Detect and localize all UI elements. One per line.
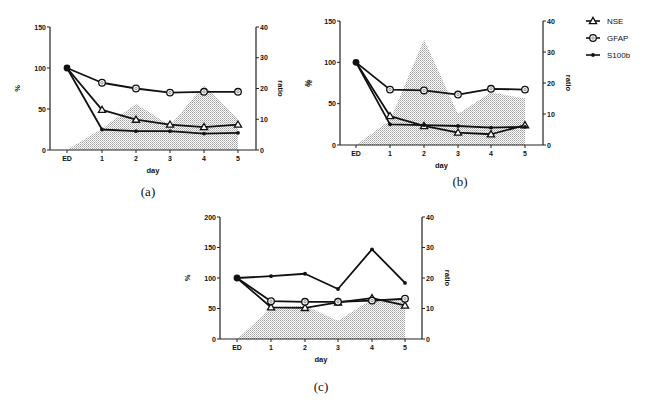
x-tick-label: 5 bbox=[236, 155, 240, 162]
dot-marker-icon bbox=[422, 123, 426, 127]
dot-marker-icon bbox=[591, 53, 595, 57]
x-tick-label: 3 bbox=[336, 344, 340, 351]
panel-caption: (a) bbox=[141, 184, 155, 199]
panel-caption: (c) bbox=[314, 379, 328, 394]
y-right-tick-label: 10 bbox=[260, 116, 268, 123]
chart-panel-b: 050100150010203040ED12345day%ratio(b) bbox=[303, 18, 573, 190]
circle-marker-icon bbox=[387, 86, 394, 93]
y-right-axis-label: ratio bbox=[443, 270, 452, 287]
circle-marker-icon bbox=[268, 298, 275, 305]
y-right-tick-label: 40 bbox=[547, 18, 555, 25]
y-right-tick-label: 0 bbox=[426, 336, 430, 343]
x-axis-label: day bbox=[147, 166, 161, 175]
y-right-tick-label: 30 bbox=[547, 49, 555, 56]
circle-marker-icon bbox=[369, 297, 376, 304]
y-axis-label: % bbox=[13, 85, 22, 92]
dot-marker-icon bbox=[168, 129, 172, 133]
x-tick-label: 5 bbox=[403, 344, 407, 351]
x-tick-label: ED bbox=[351, 150, 361, 157]
legend-label-gfap: GFAP bbox=[607, 34, 628, 43]
x-tick-label: 3 bbox=[168, 155, 172, 162]
y-right-tick-label: 20 bbox=[426, 275, 434, 282]
dot-marker-icon bbox=[303, 272, 307, 276]
dot-marker-icon bbox=[370, 247, 374, 251]
panel-caption: (b) bbox=[452, 174, 467, 189]
x-tick-label: 5 bbox=[523, 150, 527, 157]
dot-marker-icon bbox=[489, 126, 493, 130]
circle-marker-icon bbox=[167, 89, 174, 96]
y-right-tick-label: 0 bbox=[260, 147, 264, 154]
y-right-axis-label: ratio bbox=[276, 80, 285, 97]
y-tick-label: 150 bbox=[324, 18, 336, 25]
legend-label-s100b: S100b bbox=[607, 51, 631, 60]
y-tick-label: 100 bbox=[204, 275, 216, 282]
series-s100b-line bbox=[237, 249, 405, 289]
x-tick-label: 4 bbox=[370, 344, 374, 351]
dot-marker-icon bbox=[336, 287, 340, 291]
y-axis-label: % bbox=[183, 274, 192, 281]
x-tick-label: 2 bbox=[422, 150, 426, 157]
y-tick-label: 50 bbox=[208, 305, 216, 312]
y-right-axis-label: ratio bbox=[564, 75, 573, 92]
figure-canvas: 050100150010203040ED12345day%ratio%(a) 0… bbox=[0, 0, 649, 414]
ratio-area bbox=[67, 85, 238, 150]
circle-marker-icon bbox=[201, 88, 208, 95]
y-tick-label: 150 bbox=[34, 24, 46, 31]
dot-marker-icon bbox=[403, 281, 407, 285]
circle-marker-icon bbox=[455, 91, 462, 98]
y-tick-label: 100 bbox=[324, 59, 336, 66]
y-tick-label: 200 bbox=[204, 214, 216, 221]
dot-marker-icon bbox=[202, 132, 206, 136]
circle-marker-icon bbox=[590, 35, 597, 42]
dot-marker-icon bbox=[269, 274, 273, 278]
y-tick-label: 150 bbox=[204, 244, 216, 251]
x-tick-label: 2 bbox=[134, 155, 138, 162]
x-tick-label: 1 bbox=[269, 344, 273, 351]
x-tick-label: 2 bbox=[303, 344, 307, 351]
y-tick-label: 0 bbox=[212, 336, 216, 343]
x-tick-label: 4 bbox=[202, 155, 206, 162]
legend: NSEGFAPS100b bbox=[586, 17, 631, 60]
x-tick-label: 3 bbox=[456, 150, 460, 157]
y-right-tick-label: 20 bbox=[260, 85, 268, 92]
dot-marker-icon bbox=[523, 125, 527, 129]
circle-marker-icon bbox=[488, 85, 495, 92]
circle-marker-icon bbox=[133, 85, 140, 92]
y-right-tick-label: 10 bbox=[547, 111, 555, 118]
y-right-tick-label: 30 bbox=[260, 54, 268, 61]
y-axis-label: % bbox=[303, 79, 312, 86]
circle-marker-icon bbox=[235, 88, 242, 95]
circle-marker-icon bbox=[522, 86, 529, 93]
x-axis-label: day bbox=[315, 355, 329, 364]
circle-marker-icon bbox=[99, 79, 106, 86]
y-right-tick-label: 0 bbox=[547, 142, 551, 149]
triangle-marker-icon bbox=[589, 17, 596, 23]
dot-marker-icon bbox=[134, 129, 138, 133]
x-tick-label: 4 bbox=[489, 150, 493, 157]
dot-marker-icon bbox=[388, 122, 392, 126]
chart-panel-a: 050100150010203040ED12345day%ratio%(a) bbox=[13, 24, 314, 200]
dot-marker-icon bbox=[236, 131, 240, 135]
y-right-tick-label: 30 bbox=[426, 244, 434, 251]
circle-marker-icon bbox=[421, 87, 428, 94]
y-right-tick-label: 40 bbox=[426, 214, 434, 221]
y-right-tick-label: 40 bbox=[260, 24, 268, 31]
circle-marker-icon bbox=[335, 298, 342, 305]
start-point-marker-icon bbox=[64, 65, 71, 72]
chart-panel-c: 050100150200010203040ED12345day%ratio(c) bbox=[183, 214, 452, 395]
start-point-marker-icon bbox=[234, 275, 241, 282]
y-tick-label: 0 bbox=[332, 142, 336, 149]
x-tick-label: ED bbox=[62, 155, 72, 162]
y-right-tick-label: 10 bbox=[426, 305, 434, 312]
triangle-marker-icon bbox=[166, 121, 173, 127]
x-tick-label: 1 bbox=[100, 155, 104, 162]
x-tick-label: 1 bbox=[388, 150, 392, 157]
y-tick-label: 50 bbox=[38, 106, 46, 113]
dot-marker-icon bbox=[100, 128, 104, 132]
start-point-marker-icon bbox=[353, 59, 360, 66]
y-right-tick-label: 20 bbox=[547, 80, 555, 87]
legend-label-nse: NSE bbox=[607, 17, 623, 26]
dot-marker-icon bbox=[456, 124, 460, 128]
x-axis-label: day bbox=[435, 161, 449, 170]
x-tick-label: ED bbox=[232, 344, 242, 351]
